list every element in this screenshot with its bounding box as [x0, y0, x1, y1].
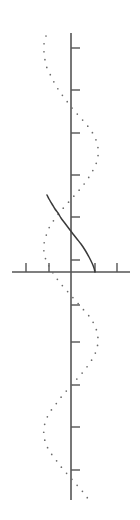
- dotted-curve-dot: [94, 352, 96, 354]
- dotted-curve-dot: [61, 466, 63, 468]
- dotted-curve-dot: [61, 285, 63, 287]
- dotted-curve-dot: [88, 315, 90, 317]
- dotted-curve-dot: [60, 396, 62, 398]
- dotted-curve-dot: [62, 207, 64, 209]
- dotted-curve-dot: [46, 67, 48, 69]
- dotted-curve-dot: [65, 390, 67, 392]
- dotted-curve-dot: [76, 484, 78, 486]
- dotted-curve-dot: [97, 337, 99, 339]
- dotted-curve-dot: [68, 201, 70, 203]
- dotted-curve-dot: [87, 125, 89, 127]
- dotted-curve-dot: [45, 35, 47, 37]
- dotted-curve-dot: [62, 94, 64, 96]
- dotted-curve-dot: [44, 423, 46, 425]
- dotted-curve-dot: [95, 139, 97, 141]
- dotted-curve-dot: [57, 88, 59, 90]
- dotted-curve-dot: [53, 220, 55, 222]
- dotted-curve-dot: [83, 183, 85, 185]
- dotted-curve-dot: [45, 258, 47, 260]
- plot-canvas: [0, 0, 140, 520]
- dotted-curve-dot: [77, 303, 79, 305]
- dotted-curve-dot: [76, 113, 78, 115]
- vertical-axis-ticks: [71, 48, 80, 470]
- dotted-curve-dot: [95, 329, 97, 331]
- dotted-curve-dot: [47, 447, 49, 449]
- dotted-curve-dot: [43, 43, 45, 45]
- dotted-curve-dot: [49, 74, 51, 76]
- dotted-curve-dot: [56, 460, 58, 462]
- dotted-curve-dot: [44, 439, 46, 441]
- dotted-curve-dot: [57, 278, 59, 280]
- dotted-curve-dot: [43, 242, 45, 244]
- dotted-curve-dot: [81, 372, 83, 374]
- dotted-curve-dot: [66, 101, 68, 103]
- plot-figure: [0, 0, 140, 520]
- dotted-curve-dot: [71, 107, 73, 109]
- axes-group: [12, 33, 130, 500]
- dotted-curve-dot: [52, 272, 54, 274]
- dotted-curve-dot: [73, 195, 75, 197]
- dotted-curve-dot: [66, 472, 68, 474]
- dotted-curve-dot: [72, 297, 74, 299]
- dotted-curve-dot: [92, 321, 94, 323]
- dotted-curve-dot: [78, 189, 80, 191]
- dotted-curve-dot: [91, 359, 93, 361]
- dotted-curve-dot: [51, 454, 53, 456]
- dotted-curve-dot: [53, 81, 55, 83]
- dotted-curve-dot: [44, 59, 46, 61]
- dotted-curve-dot: [83, 309, 85, 311]
- dotted-curve-dot: [82, 119, 84, 121]
- dotted-curve-dot: [51, 409, 53, 411]
- dotted-curve-dot: [55, 403, 57, 405]
- dotted-curve-dot: [86, 366, 88, 368]
- dotted-curve-dot: [48, 227, 50, 229]
- dotted-curve-dot: [76, 378, 78, 380]
- dotted-curve-dot: [97, 155, 99, 157]
- dotted-curve-dot: [43, 431, 45, 433]
- dotted-curve-dot: [82, 490, 84, 492]
- dotted-curve-dot: [45, 234, 47, 236]
- dotted-curve-dot: [92, 170, 94, 172]
- dotted-curve-dot: [43, 51, 45, 53]
- dotted-curve-dot: [71, 478, 73, 480]
- dotted-curve-dot: [86, 497, 88, 499]
- dotted-curve-dot: [88, 177, 90, 179]
- dotted-curve-dot: [43, 250, 45, 252]
- dotted-curve-dot: [71, 384, 73, 386]
- dotted-curve-dot: [97, 147, 99, 149]
- dotted-curve-dot: [48, 265, 50, 267]
- dotted-curve-dot: [97, 345, 99, 347]
- dotted-curve-dot: [92, 132, 94, 134]
- dotted-curve-dot: [67, 291, 69, 293]
- dotted-curve-dot: [47, 416, 49, 418]
- dotted-curve-dot: [95, 162, 97, 164]
